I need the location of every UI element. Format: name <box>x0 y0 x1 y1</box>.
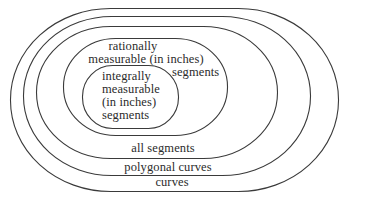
rationally-measurable-label-line-3: segments <box>172 66 219 79</box>
all-segments-label: all segments <box>108 142 218 155</box>
nested-sets-diagram: integrally measurable (in inches) segmen… <box>0 0 368 202</box>
integrally-label-line-4: segments <box>102 109 160 122</box>
polygonal-curves-label: polygonal curves <box>112 161 224 174</box>
integrally-measurable-label: integrally measurable (in inches) segmen… <box>102 70 160 122</box>
curves-label: curves <box>142 176 202 189</box>
